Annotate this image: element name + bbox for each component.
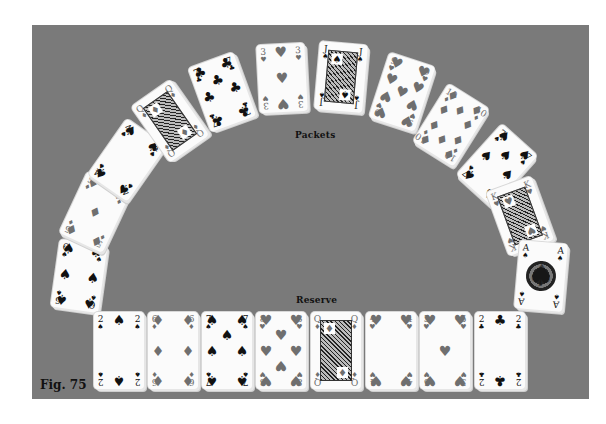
packets-label: Packets <box>295 130 335 140</box>
reserve-card[interactable]: 6♦6♦6♦6♦♦♦♦♦♦♦ <box>148 312 198 389</box>
spade-pip-icon: ♠ <box>113 374 126 388</box>
court-suit-icon: ♦ <box>148 102 163 117</box>
heart-pip-icon: ♥ <box>370 313 383 327</box>
court-suit-icon: ♥ <box>524 224 538 238</box>
heart-pip-icon: ♥ <box>373 104 389 121</box>
club-pip-icon: ♣ <box>494 374 507 388</box>
spade-pip-icon: ♠ <box>236 374 249 388</box>
heart-pip-icon: ♥ <box>439 344 452 358</box>
card-rank: 2 <box>516 377 522 387</box>
spade-pip-icon: ♠ <box>221 328 234 342</box>
heart-pip-icon: ♥ <box>400 374 413 388</box>
spade-pip-icon: ♠ <box>62 240 76 256</box>
heart-pip-icon: ♥ <box>275 328 288 342</box>
heart-pip-icon: ♥ <box>400 313 413 327</box>
spade-pip-icon: ♠ <box>236 313 249 327</box>
card-index: 3♥ <box>296 92 306 108</box>
diamond-pip-icon: ♦ <box>152 374 165 388</box>
heart-suit-icon: ♥ <box>294 55 303 62</box>
spade-pip-icon: ♠ <box>54 292 68 308</box>
diamond-pip-icon: ♦ <box>88 232 105 250</box>
heart-pip-icon: ♥ <box>290 313 303 327</box>
packet-card[interactable]: J♠J♠J♠J♠♠♠ <box>314 41 368 113</box>
packet-card[interactable]: A♠A♠A♠A♠ <box>514 240 568 312</box>
heart-pip-icon: ♥ <box>274 45 287 60</box>
heart-pip-icon: ♥ <box>277 97 290 112</box>
heart-pip-icon: ♥ <box>424 374 437 388</box>
spade-pip-icon: ♠ <box>496 146 515 165</box>
reserve-label: Reserve <box>296 295 337 305</box>
spade-suit-icon: ♠ <box>133 370 142 377</box>
club-pip-icon: ♣ <box>201 88 218 105</box>
diamond-pip-icon: ♦ <box>435 101 453 120</box>
spade-pip-icon: ♠ <box>206 374 219 388</box>
card-rank: J <box>354 100 358 110</box>
heart-pip-icon: ♥ <box>260 313 273 327</box>
diamond-pip-icon: ♦ <box>86 203 103 221</box>
court-suit-icon: ♥ <box>502 194 516 208</box>
figure-caption: Fig. 75 <box>40 378 87 392</box>
ace-of-spades-emblem-icon <box>525 260 558 293</box>
card-rank: A <box>552 299 559 310</box>
spade-suit-icon: ♠ <box>555 255 565 263</box>
heart-pip-icon: ♥ <box>260 374 273 388</box>
diamond-pip-icon: ♦ <box>182 313 195 327</box>
club-pip-icon: ♣ <box>494 313 507 327</box>
packet-card[interactable]: 3♥3♥3♥3♥♥♥♥ <box>256 43 307 113</box>
card-rank: A <box>518 296 525 307</box>
spade-pip-icon: ♠ <box>206 344 219 358</box>
card-rank: J <box>319 97 323 107</box>
heart-pip-icon: ♥ <box>389 54 405 71</box>
reserve-card[interactable]: 2♠2♠2♠2♠♠♠ <box>94 312 144 389</box>
spade-pip-icon: ♠ <box>477 146 496 165</box>
heart-pip-icon: ♥ <box>454 313 467 327</box>
card-index: 2♠ <box>133 315 142 331</box>
club-suit-icon: ♣ <box>514 370 523 377</box>
court-card-figure-icon: ♦♦ <box>320 320 352 381</box>
heart-pip-icon: ♥ <box>370 374 383 388</box>
court-suit-icon: ♠ <box>339 89 351 101</box>
card-index: A♠ <box>555 246 565 263</box>
reserve-card[interactable]: 5♥5♥5♥5♥♥♥♥♥♥ <box>420 312 470 389</box>
diamond-pip-icon: ♦ <box>182 344 195 358</box>
spade-pip-icon: ♠ <box>113 313 126 327</box>
reserve-card[interactable]: 2♣2♣2♣2♣♣♣ <box>475 312 525 389</box>
court-suit-icon: ♦ <box>177 125 192 140</box>
reserve-card[interactable]: 4♥4♥4♥4♥♥♥♥♥ <box>366 312 416 389</box>
heart-pip-icon: ♥ <box>410 79 426 96</box>
court-suit-icon: ♦ <box>337 367 348 378</box>
heart-pip-icon: ♥ <box>275 359 288 373</box>
reserve-card[interactable]: 7♠7♠7♠7♠♠♠♠♠♠♠♠ <box>202 312 252 389</box>
heart-pip-icon: ♥ <box>260 344 273 358</box>
heart-suit-icon: ♥ <box>296 92 305 99</box>
court-suit-icon: ♦ <box>324 323 335 334</box>
court-card-figure-icon: ♠♠ <box>324 50 358 104</box>
card-rank: 3 <box>298 99 304 109</box>
heart-pip-icon: ♥ <box>378 87 394 104</box>
heart-pip-icon: ♥ <box>275 71 288 86</box>
heart-pip-icon: ♥ <box>290 344 303 358</box>
spade-suit-icon: ♠ <box>133 324 142 331</box>
club-suit-icon: ♣ <box>514 324 523 331</box>
heart-pip-icon: ♥ <box>404 96 420 113</box>
club-pip-icon: ♣ <box>227 78 244 95</box>
reserve-card[interactable]: Q♦Q♦Q♦Q♦♦♦ <box>311 312 361 389</box>
heart-pip-icon: ♥ <box>454 374 467 388</box>
card-rank: 2 <box>98 377 104 387</box>
heart-pip-icon: ♥ <box>424 313 437 327</box>
reserve-card[interactable]: 8♥8♥8♥8♥♥♥♥♥♥♥♥♥ <box>256 312 306 389</box>
card-index: A♠ <box>551 292 561 309</box>
spade-pip-icon: ♠ <box>206 313 219 327</box>
card-rank: 2 <box>479 377 485 387</box>
card-rank: 3 <box>263 101 269 111</box>
spade-pip-icon: ♠ <box>86 270 100 286</box>
spade-pip-icon: ♠ <box>82 296 96 312</box>
card-index: 2♣ <box>514 370 523 386</box>
diamond-pip-icon: ♦ <box>182 374 195 388</box>
court-suit-icon: ♠ <box>331 53 343 65</box>
spade-pip-icon: ♠ <box>236 344 249 358</box>
spade-pip-icon: ♠ <box>58 266 72 282</box>
diamond-pip-icon: ♦ <box>152 313 165 327</box>
heart-pip-icon: ♥ <box>290 374 303 388</box>
diamond-pip-icon: ♦ <box>152 344 165 358</box>
